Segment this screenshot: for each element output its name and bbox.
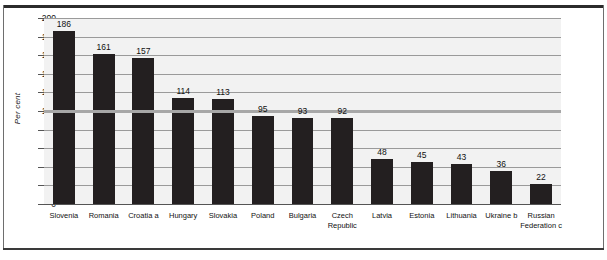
bar-value-label: 161 [84,43,124,52]
gridline [44,37,561,38]
bar [411,162,433,204]
bar [371,159,393,204]
bar [53,31,75,204]
bar-value-label: 43 [442,153,482,162]
bar-chart: Per cent 020406080100120140160180200 186… [0,0,607,260]
bar [93,54,115,204]
bar-value-label: 157 [124,47,164,56]
bar [331,118,353,204]
bar [292,118,314,204]
bar [172,98,194,204]
bar-value-label: 45 [402,151,442,160]
bar-value-label: 48 [362,148,402,157]
gridline [44,55,561,56]
gridline [44,18,561,19]
gridline [44,74,561,75]
bar [530,184,552,204]
bar [252,116,274,204]
category-label: RussianFederation c [513,211,569,231]
bar [212,99,234,204]
bar-value-label: 114 [163,87,203,96]
bar [132,58,154,204]
bar-value-label: 22 [521,173,561,182]
bar-value-label: 186 [44,20,84,29]
bar-value-label: 113 [203,88,243,97]
figure-container: Per cent 020406080100120140160180200 186… [0,0,607,260]
bar-value-label: 92 [322,107,362,116]
gridline [44,204,561,205]
bar-value-label: 36 [481,160,521,169]
bar-value-label: 95 [243,105,283,114]
bar-value-label: 93 [283,107,323,116]
bar [451,164,473,204]
gridline [44,92,561,93]
bar [490,171,512,204]
